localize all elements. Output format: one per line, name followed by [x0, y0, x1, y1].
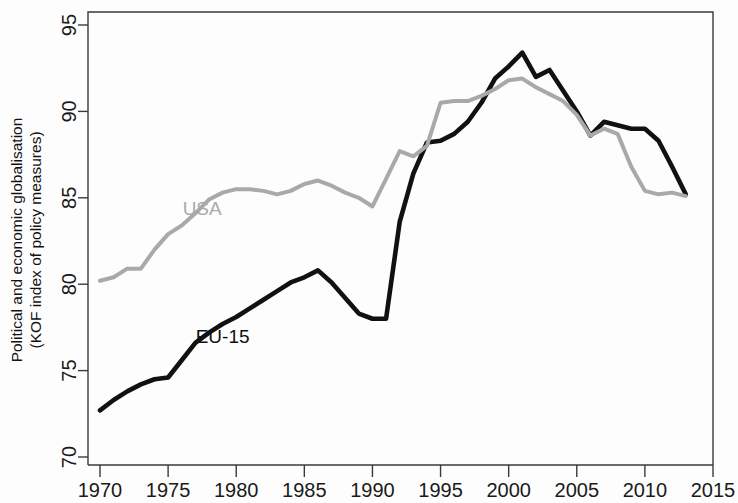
series-line-eu-15: [100, 53, 686, 411]
x-tick-label: 1980: [214, 479, 259, 501]
x-tick-label: 2010: [623, 479, 668, 501]
x-tick-label: 2015: [691, 479, 736, 501]
y-axis-title-line2: (KOF index of policy measures): [27, 131, 44, 348]
x-tick-label: 1970: [78, 479, 123, 501]
y-tick-label: 80: [58, 273, 80, 295]
x-axis-ticks: 1970197519801985199019952000200520102015: [78, 465, 736, 501]
y-tick-label: 95: [58, 14, 80, 36]
series-label-group: EU-15USA: [183, 198, 250, 347]
x-tick-label: 1995: [418, 479, 463, 501]
series-label-eu-15: EU-15: [196, 326, 250, 347]
x-tick-label: 2005: [555, 479, 600, 501]
chart-figure: 707580859095 197019751980198519901995200…: [0, 0, 738, 503]
series-line-usa: [100, 79, 686, 281]
y-tick-label: 85: [58, 187, 80, 209]
line-chart: 707580859095 197019751980198519901995200…: [0, 0, 738, 503]
x-tick-label: 1975: [146, 479, 191, 501]
x-tick-label: 2000: [486, 479, 531, 501]
y-tick-label: 70: [58, 446, 80, 468]
y-tick-label: 90: [58, 100, 80, 122]
y-axis-title-line1: Political and economic globalisation: [8, 118, 25, 363]
data-series-group: [100, 53, 686, 411]
y-axis-ticks: 707580859095: [58, 14, 88, 468]
series-label-usa: USA: [183, 198, 222, 219]
x-tick-label: 1985: [282, 479, 327, 501]
x-tick-label: 1990: [350, 479, 395, 501]
plot-frame: [88, 12, 713, 465]
y-tick-label: 75: [58, 359, 80, 381]
